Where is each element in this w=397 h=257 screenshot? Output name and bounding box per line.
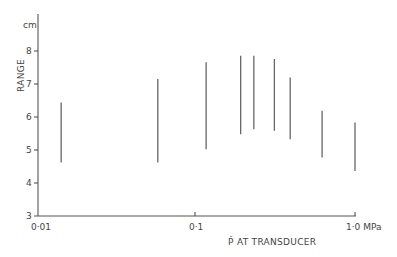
x-tick-0.1: 0·1 bbox=[189, 222, 203, 232]
range-bars bbox=[61, 56, 355, 171]
x-tick-1.0: 1·0 MPa bbox=[346, 222, 381, 232]
y-tick-4: 4 bbox=[26, 178, 32, 188]
y-tick-8: 8 bbox=[26, 46, 32, 56]
x-ticks bbox=[195, 212, 355, 216]
x-tick-0.01: 0·01 bbox=[31, 222, 51, 232]
y-tick-5: 5 bbox=[26, 145, 32, 155]
x-axis-title: P̂ AT TRANSDUCER bbox=[228, 236, 316, 247]
y-unit-label: cm bbox=[23, 20, 37, 30]
y-ticks bbox=[34, 51, 38, 183]
y-tick-3: 3 bbox=[26, 211, 32, 221]
y-tick-7: 7 bbox=[26, 79, 32, 89]
y-tick-6: 6 bbox=[26, 112, 32, 122]
y-axis-title: RANGE bbox=[16, 59, 26, 92]
range-chart: cm 8 7 6 5 4 3 RANGE 0·01 0·1 1·0 MPa P̂… bbox=[0, 0, 397, 257]
